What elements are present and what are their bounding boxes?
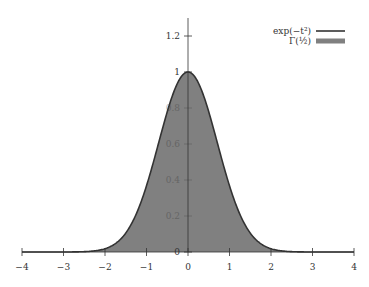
x-tick-label: −3 xyxy=(57,262,71,272)
x-tick-label: −1 xyxy=(140,262,153,272)
x-tick-label: 0 xyxy=(185,262,191,272)
y-tick-label: 1 xyxy=(174,67,180,77)
x-tick-label: 4 xyxy=(351,262,357,272)
x-tick-label: 1 xyxy=(227,262,233,272)
x-tick-label: −2 xyxy=(98,262,111,272)
y-tick-label: 1.2 xyxy=(166,31,180,41)
legend: exp(−t²)Γ(½) xyxy=(273,26,345,46)
y-tick-label: 0.4 xyxy=(166,175,181,185)
x-tick-label: 2 xyxy=(268,262,274,272)
y-tick-label: 0 xyxy=(174,247,180,257)
legend-label: exp(−t²) xyxy=(273,26,311,36)
x-tick-label: 3 xyxy=(310,262,316,272)
legend-label: Γ(½) xyxy=(289,36,311,46)
chart: −4−3−2−10123400.20.40.60.811.2 exp(−t²)Γ… xyxy=(0,0,369,287)
x-tick-label: −4 xyxy=(15,262,29,272)
y-tick-label: 0.8 xyxy=(166,103,181,113)
y-tick-label: 0.6 xyxy=(166,139,181,149)
y-tick-label: 0.2 xyxy=(166,211,180,221)
